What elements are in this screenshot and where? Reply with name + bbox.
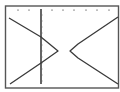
tick-mark: [85, 10, 86, 11]
tick-mark: [28, 10, 29, 11]
right-branch: [70, 17, 118, 84]
tick-mark: [62, 10, 63, 11]
tick-mark: [108, 10, 109, 11]
tick-mark: [73, 10, 74, 11]
tick-mark: [17, 10, 18, 11]
tick-mark: [96, 10, 97, 11]
top-tick-marks: [17, 10, 109, 11]
tick-mark: [51, 10, 52, 11]
left-branch: [9, 18, 58, 84]
calculator-graph-screen: [0, 0, 120, 92]
hyperbola-branches: [9, 17, 118, 84]
hyperbola-plot: [0, 0, 120, 92]
